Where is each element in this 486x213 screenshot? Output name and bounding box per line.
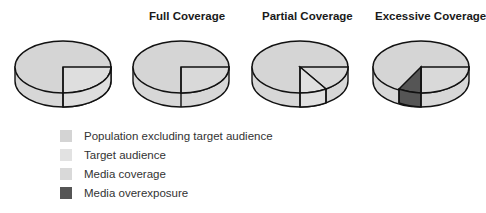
legend-item-media-coverage: Media coverage <box>60 164 273 183</box>
pie-full-coverage <box>133 41 229 107</box>
legend-item-target-audience: Target audience <box>60 145 273 164</box>
legend-label: Media coverage <box>84 168 166 180</box>
swatch-media-overexposure <box>60 187 72 199</box>
legend-label: Target audience <box>84 149 166 161</box>
swatch-target-audience <box>60 149 72 161</box>
swatch-population <box>60 130 72 142</box>
pie-baseline <box>15 41 111 107</box>
pie-excessive-coverage <box>373 41 469 107</box>
legend-item-population: Population excluding target audience <box>60 126 273 145</box>
swatch-media-coverage <box>60 168 72 180</box>
pie-partial-coverage <box>252 41 348 107</box>
legend: Population excluding target audience Tar… <box>60 126 273 202</box>
pie-charts <box>0 0 479 125</box>
legend-label: Population excluding target audience <box>84 130 273 142</box>
legend-item-media-overexposure: Media overexposure <box>60 183 273 202</box>
legend-label: Media overexposure <box>84 187 188 199</box>
